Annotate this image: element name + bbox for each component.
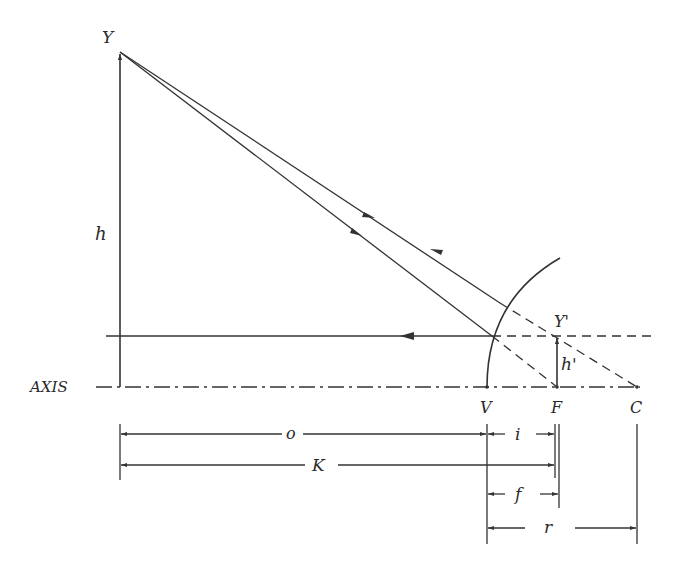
object-distance-label: o (286, 424, 296, 443)
image-distance-label: i (515, 424, 520, 444)
ray-to-focus-extension (492, 336, 557, 387)
object-tip-label: Y (102, 27, 115, 47)
center-point (635, 385, 639, 389)
focus-label: F (550, 398, 563, 417)
ray-arrow-icon (350, 228, 362, 236)
vertex-label: V (480, 398, 493, 417)
image-tip-label: Y' (554, 312, 569, 331)
object-height-label: h (95, 223, 107, 244)
focus-point (555, 385, 559, 389)
radius-label: r (544, 517, 553, 537)
concave-mirror-diagram: Y h Y' h' AXIS V F C o i K f r (0, 0, 676, 573)
center-label: C (630, 398, 642, 417)
image-height-label: h' (561, 354, 577, 374)
axis-label: AXIS (28, 378, 68, 396)
ray-arrow-icon (430, 249, 443, 255)
ray-to-focus (120, 52, 492, 336)
object-to-focus-label: K (311, 455, 326, 475)
concave-mirror (487, 258, 560, 387)
vertex-point (485, 385, 489, 389)
ray-arrow-icon (400, 332, 414, 340)
focal-length-label: f (513, 484, 524, 504)
ray-through-center (120, 52, 500, 303)
ray-arrow-icon (362, 212, 375, 218)
